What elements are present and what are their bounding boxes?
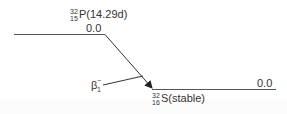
parent-level-energy: 0.0 [86, 23, 101, 34]
daughter-atomic-number: 16 [152, 99, 160, 106]
daughter-mass-number: 32 [152, 92, 160, 99]
decay-arrow [105, 35, 152, 89]
decay-scheme-lines [0, 0, 287, 114]
parent-atomic-number: 15 [70, 15, 78, 22]
parent-symbol: P(14.29d) [79, 9, 127, 20]
beta-label: β − 1 [91, 80, 97, 91]
parent-mass-number: 32 [70, 8, 78, 15]
daughter-level-energy: 0.0 [257, 78, 272, 89]
daughter-symbol: S(stable) [161, 93, 205, 104]
beta-pointer-line [103, 76, 143, 85]
